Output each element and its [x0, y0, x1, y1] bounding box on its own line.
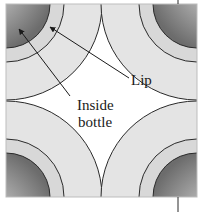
lip-label: Lip: [131, 72, 152, 88]
inside-bottle-label-line1: Inside: [77, 97, 114, 113]
inside-bottle-label-line2: bottle: [78, 114, 112, 130]
